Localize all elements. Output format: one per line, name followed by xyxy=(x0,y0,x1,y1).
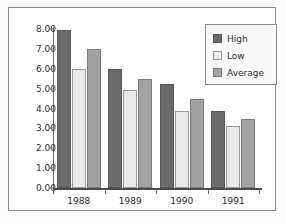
x-axis-label-1991: 1991 xyxy=(208,196,260,212)
bar-high-1991[interactable] xyxy=(211,111,225,189)
bar-high-1989[interactable] xyxy=(108,69,122,188)
bar-low-1990[interactable] xyxy=(175,111,189,189)
bar-low-1988[interactable] xyxy=(72,69,86,188)
bar-group xyxy=(156,29,208,188)
bar-average-1991[interactable] xyxy=(241,119,255,188)
x-axis-separator xyxy=(53,189,54,194)
x-axis-labels: 1988198919901991 xyxy=(53,196,259,212)
legend-label-low: Low xyxy=(227,51,245,61)
chart-frame: 8.007.006.005.004.003.002.001.000.00 198… xyxy=(8,7,276,211)
x-axis-label-1989: 1989 xyxy=(105,196,157,212)
x-axis-label-1990: 1990 xyxy=(156,196,208,212)
bar-average-1989[interactable] xyxy=(138,79,152,188)
bar-low-1991[interactable] xyxy=(226,126,240,188)
bar-group xyxy=(53,29,105,188)
x-axis-line xyxy=(53,188,262,190)
legend-item-low[interactable]: Low xyxy=(213,47,276,64)
bar-group xyxy=(105,29,157,188)
x-axis-separator xyxy=(105,189,106,194)
x-axis-separator xyxy=(156,189,157,194)
bar-high-1990[interactable] xyxy=(160,84,174,188)
chart-page: 8.007.006.005.004.003.002.001.000.00 198… xyxy=(0,0,286,223)
legend-label-high: High xyxy=(227,34,248,44)
x-axis-separator xyxy=(259,189,260,194)
x-axis-label-1988: 1988 xyxy=(53,196,105,212)
x-axis-separator xyxy=(208,189,209,194)
legend-item-average[interactable]: Average xyxy=(213,64,276,81)
legend-swatch-low xyxy=(213,51,222,60)
bar-low-1989[interactable] xyxy=(123,90,137,188)
legend-label-average: Average xyxy=(227,68,264,78)
bar-average-1988[interactable] xyxy=(87,49,101,188)
bar-average-1990[interactable] xyxy=(190,99,204,188)
chart-legend: HighLowAverage xyxy=(205,24,277,85)
bar-high-1988[interactable] xyxy=(57,30,71,188)
legend-swatch-average xyxy=(213,68,222,77)
legend-item-high[interactable]: High xyxy=(213,30,276,47)
legend-swatch-high xyxy=(213,34,222,43)
